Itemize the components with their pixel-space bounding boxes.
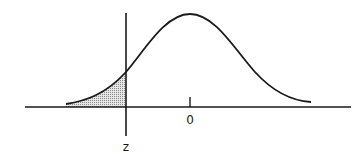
mean-label: 0	[186, 113, 194, 127]
z-label: z	[123, 140, 129, 154]
bell-curve	[66, 14, 311, 104]
normal-curve-diagram: 0 z	[0, 0, 361, 158]
